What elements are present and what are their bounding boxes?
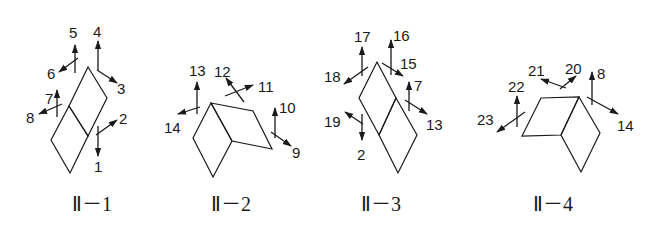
rhombus-face [69, 67, 107, 136]
arrow-label: 7 [45, 90, 53, 107]
rhombus-face [193, 103, 232, 177]
arrow-icon [97, 70, 117, 83]
arrow-label: 2 [357, 146, 365, 163]
figure-ii-4: 81420212223Ⅱ－4 [477, 60, 634, 215]
arrow-label: 18 [324, 68, 341, 85]
arrow-label: 11 [258, 78, 274, 95]
rhombus-face [561, 97, 600, 172]
arrow-icon [96, 120, 117, 135]
arrow-label: 12 [214, 63, 231, 80]
figure-ii-3: 21918171615713Ⅱ－3 [324, 27, 443, 215]
arrow-label: 19 [324, 113, 341, 130]
arrow-label: 1 [94, 158, 102, 175]
arrow-label: 13 [426, 116, 443, 133]
arrow-icon [587, 97, 618, 114]
arrow-label: 4 [93, 23, 101, 40]
arrow-label: 14 [164, 119, 181, 136]
rhombus-face [211, 103, 272, 149]
figure-caption: Ⅱ－1 [72, 193, 112, 215]
arrow-label: 16 [393, 27, 410, 44]
arrow-label: 14 [617, 117, 634, 134]
arrow-label: 20 [565, 60, 582, 77]
rhombus-face [522, 97, 579, 136]
arrow-icon [541, 79, 566, 88]
arrow-label: 13 [189, 62, 206, 79]
arrow-label: 15 [400, 55, 417, 72]
arrow-icon [344, 67, 368, 84]
arrow-label: 10 [279, 99, 296, 116]
figures-layer: 12345678Ⅱ－191011121314Ⅱ－221918171615713Ⅱ… [26, 23, 634, 215]
arrow-label: 23 [477, 111, 494, 128]
arrow-icon [405, 100, 427, 114]
arrow-label: 9 [292, 144, 300, 161]
arrow-icon [497, 112, 525, 132]
figure-ii-2: 91011121314Ⅱ－2 [164, 62, 300, 215]
arrow-icon [345, 112, 363, 124]
arrow-label: 2 [119, 110, 127, 127]
rhombus-face [379, 98, 417, 173]
figure-caption: Ⅱ－4 [533, 193, 573, 215]
arrow-label: 8 [597, 65, 605, 82]
figure-caption: Ⅱ－2 [211, 193, 251, 215]
arrow-label: 6 [47, 65, 55, 82]
arrow-label: 21 [528, 62, 545, 79]
arrow-label: 5 [69, 24, 77, 41]
arrow-label: 3 [117, 80, 125, 97]
arrow-label: 7 [414, 77, 422, 94]
arrow-label: 8 [26, 109, 34, 126]
diagram-canvas: 12345678Ⅱ－191011121314Ⅱ－221918171615713Ⅱ… [0, 0, 657, 226]
figure-ii-1: 12345678Ⅱ－1 [26, 23, 127, 215]
arrow-icon [271, 132, 291, 146]
figure-caption: Ⅱ－3 [361, 193, 401, 215]
arrow-label: 22 [508, 78, 525, 95]
arrow-label: 17 [354, 28, 371, 45]
